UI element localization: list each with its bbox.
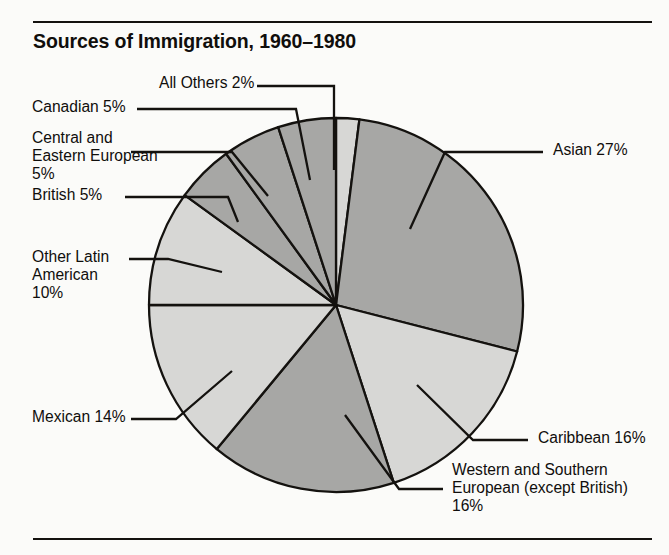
slice-label-british: British 5% [32,186,102,204]
slice-label-central-eastern-european: Central and Eastern European 5% [32,129,158,184]
slice-label-caribbean: Caribbean 16% [538,429,646,447]
slice-label-mexican: Mexican 14% [32,408,126,426]
immigration-pie-chart-figure: Sources of Immigration, 1960–1980 All Ot… [0,0,669,555]
slice-label-other-latin-american: Other Latin American 10% [32,248,109,303]
slice-label-western-southern-european: Western and Southern European (except Br… [452,461,628,516]
figure-bottom-rule [33,538,652,540]
slice-label-asian: Asian 27% [553,141,628,159]
slice-label-all-others: All Others 2% [159,74,254,92]
slice-label-canadian: Canadian 5% [32,98,126,116]
pie-slice-group [149,118,523,492]
